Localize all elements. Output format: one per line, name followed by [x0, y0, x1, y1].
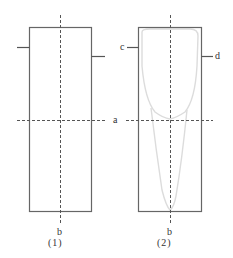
panel-1-label-b: b: [57, 227, 62, 237]
label-c: c: [120, 42, 124, 52]
panel-1-caption: (1): [48, 238, 63, 248]
diagram-canvas: [0, 0, 233, 258]
panel-2-label-b: b: [167, 227, 172, 237]
panel-2-caption: (2): [157, 238, 172, 248]
label-a: a: [113, 115, 117, 125]
panel-2: [126, 15, 213, 224]
label-d: d: [215, 51, 220, 61]
panel-2-root-outline: [151, 108, 187, 210]
panel-1: [17, 15, 107, 224]
